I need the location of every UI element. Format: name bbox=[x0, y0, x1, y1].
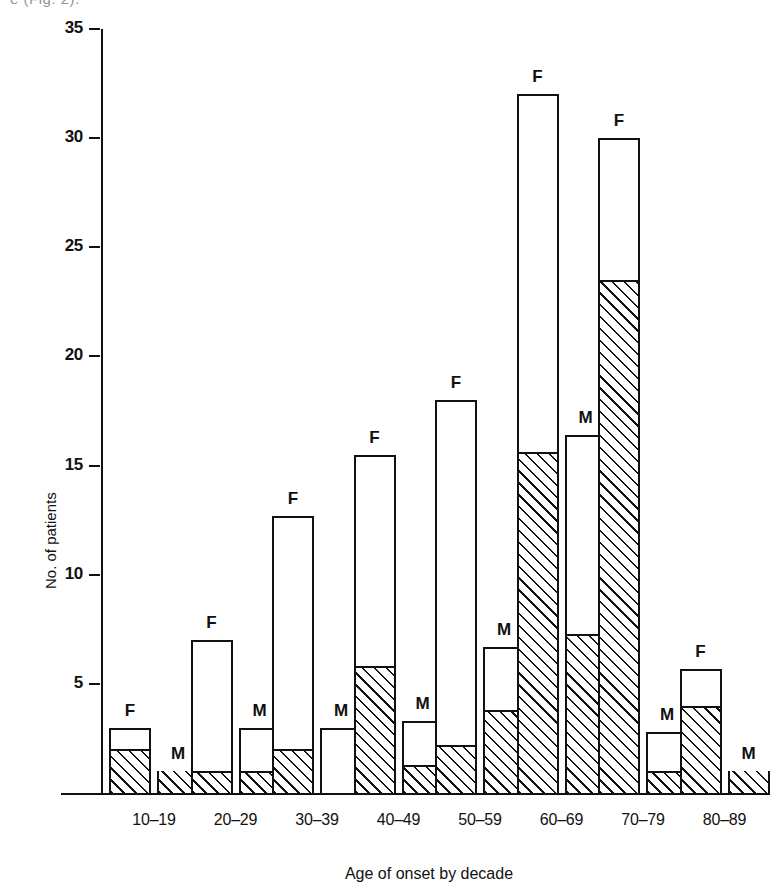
y-axis-tick bbox=[89, 28, 100, 30]
bar-label-f: F bbox=[666, 642, 736, 662]
x-axis-category-label: 80–89 bbox=[664, 811, 783, 829]
y-axis-tick-label: 30 bbox=[39, 127, 83, 147]
y-axis-tick-label: 25 bbox=[39, 236, 83, 256]
bar-chart: 5101520253035No. of patientsFM10–19FM20–… bbox=[0, 0, 783, 895]
y-axis-tick bbox=[89, 246, 100, 248]
bar-label-f: F bbox=[340, 428, 410, 448]
y-axis-tick-label: 20 bbox=[39, 345, 83, 365]
y-axis-tick bbox=[89, 355, 100, 357]
bar-label-f: F bbox=[421, 373, 491, 393]
y-axis-tick bbox=[89, 683, 100, 685]
bar-f[interactable] bbox=[272, 516, 314, 795]
bar-hatched-segment bbox=[519, 452, 557, 793]
bar-f[interactable] bbox=[517, 94, 559, 795]
bar-f[interactable] bbox=[354, 455, 396, 795]
bar-m[interactable] bbox=[728, 771, 770, 795]
y-axis-tick bbox=[89, 574, 100, 576]
bar-label-f: F bbox=[95, 701, 165, 721]
bar-f[interactable] bbox=[680, 669, 722, 795]
bar-label-f: F bbox=[584, 111, 654, 131]
bar-label-f: F bbox=[258, 489, 328, 509]
y-axis-tick bbox=[89, 465, 100, 467]
bar-hatched-segment bbox=[193, 771, 231, 793]
y-axis-tick-label: 5 bbox=[39, 673, 83, 693]
figure-root: e (Fig. 2). 5101520253035No. of patients… bbox=[0, 0, 783, 895]
bar-f[interactable] bbox=[435, 400, 477, 795]
bar-label-m: M bbox=[714, 744, 783, 764]
bar-label-f: F bbox=[177, 613, 247, 633]
y-axis-tick-label: 15 bbox=[39, 455, 83, 475]
bar-hatched-segment bbox=[274, 749, 312, 793]
bar-hatched-segment bbox=[437, 745, 475, 793]
bar-hatched-segment bbox=[730, 771, 768, 793]
bar-f[interactable] bbox=[598, 138, 640, 795]
bar-hatched-segment bbox=[356, 666, 394, 793]
x-axis-title: Age of onset by decade bbox=[101, 865, 757, 883]
bar-label-f: F bbox=[503, 67, 573, 87]
y-axis bbox=[101, 29, 103, 795]
y-axis-tick bbox=[89, 137, 100, 139]
y-axis-tick-label: 35 bbox=[39, 18, 83, 38]
y-axis-title: No. of patients bbox=[42, 492, 59, 589]
